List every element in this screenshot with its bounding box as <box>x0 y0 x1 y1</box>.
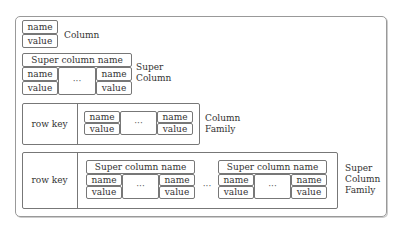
super-column-left-name: name <box>22 67 58 81</box>
scf-sc2-ellipsis: ··· <box>254 174 291 199</box>
cell-text: name <box>27 70 52 79</box>
row-key-divider <box>77 152 78 209</box>
label-line: Super <box>345 163 380 174</box>
header-text: Super column name <box>95 163 187 172</box>
cell-text: name <box>162 113 187 122</box>
column-value-text: value <box>28 37 52 46</box>
super-column-header-text: Super column name <box>31 56 123 65</box>
cell-text: name <box>89 113 114 122</box>
row-key-text: row key <box>31 120 67 129</box>
label-line: Column <box>205 113 240 124</box>
cf-left-value: value <box>84 123 120 135</box>
ellipsis-text: ··· <box>268 182 277 191</box>
label-line: Column <box>136 73 171 84</box>
row-key-text: row key <box>31 176 67 185</box>
ellipsis-text: ··· <box>136 182 145 191</box>
header-text: Super column name <box>227 163 319 172</box>
scf-super-column-1-header: Super column name <box>86 160 195 174</box>
ellipsis-text: ··· <box>203 182 212 191</box>
cell-text: value <box>163 125 187 134</box>
row-key-divider <box>77 103 78 145</box>
cf-right-value: value <box>157 123 193 135</box>
scf-sc2-left-value: value <box>218 186 254 199</box>
cell-text: value <box>165 188 189 197</box>
column-name-cell: name <box>22 20 58 34</box>
scf-sc1-left-value: value <box>86 186 122 199</box>
cf-left-name: name <box>84 111 120 123</box>
ellipsis-text: ··· <box>73 77 82 86</box>
label-line: Family <box>345 185 380 196</box>
cf-ellipsis: ··· <box>120 111 157 135</box>
column-family-row-key: row key <box>22 103 77 145</box>
super-column-family-label: SuperColumnFamily <box>345 163 380 196</box>
column-value-cell: value <box>22 34 58 48</box>
scf-sc1-right-value: value <box>159 186 195 199</box>
ellipsis-text: ··· <box>134 119 143 128</box>
scf-sc1-ellipsis: ··· <box>122 174 159 199</box>
column-name-text: name <box>27 23 52 32</box>
label-line: Column <box>345 174 380 185</box>
cell-text: value <box>224 188 248 197</box>
column-family-label: ColumnFamily <box>205 113 240 135</box>
super-column-ellipsis: ··· <box>58 67 96 95</box>
column-label: Column <box>64 30 99 41</box>
scf-sc1-right-name: name <box>159 174 195 186</box>
super-column-left-value: value <box>22 81 58 95</box>
cell-text: value <box>92 188 116 197</box>
super-column-right-name: name <box>96 67 132 81</box>
super-column-right-value: value <box>96 81 132 95</box>
label-line: Super <box>136 62 171 73</box>
cell-text: name <box>101 70 126 79</box>
cell-text: value <box>297 188 321 197</box>
scf-sc1-left-name: name <box>86 174 122 186</box>
cell-text: value <box>90 125 114 134</box>
cell-text: value <box>102 84 126 93</box>
scf-sc2-right-value: value <box>291 186 327 199</box>
label-line: Family <box>205 124 240 135</box>
super-column-label: SuperColumn <box>136 62 171 84</box>
scf-sc2-left-name: name <box>218 174 254 186</box>
cell-text: name <box>296 176 321 185</box>
scf-sc2-right-name: name <box>291 174 327 186</box>
scf-row-key: row key <box>22 152 77 209</box>
cf-right-name: name <box>157 111 193 123</box>
cell-text: value <box>28 84 52 93</box>
super-column-header: Super column name <box>22 53 132 67</box>
cell-text: name <box>164 176 189 185</box>
scf-between-ellipsis: ··· <box>198 174 216 199</box>
scf-super-column-2-header: Super column name <box>218 160 327 174</box>
cell-text: name <box>223 176 248 185</box>
cell-text: name <box>91 176 116 185</box>
